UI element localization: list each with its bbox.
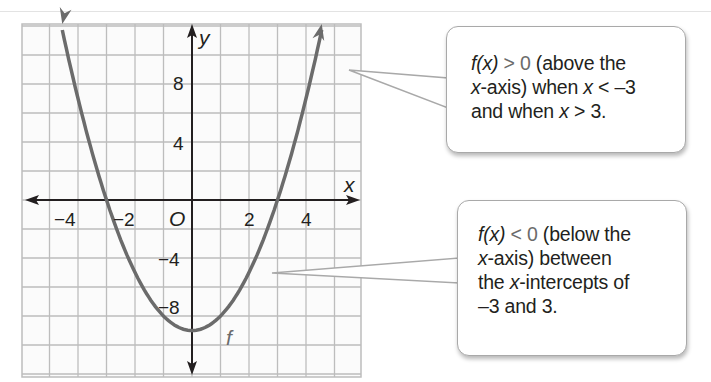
y-axis-label: y (197, 26, 211, 49)
fx-symbol: f(x) (478, 223, 505, 245)
y-tick-8: 8 (173, 73, 184, 94)
origin-label: O (169, 207, 185, 230)
x-tick--2: −2 (113, 209, 135, 230)
relation: > 0 (498, 52, 530, 74)
callout-text: -axis) between (488, 247, 612, 269)
callout-1-pointer (349, 70, 448, 108)
callout-1-line-1: f(x) > 0 (above the (471, 51, 685, 75)
fx-symbol: f(x) (471, 52, 498, 74)
x-tick--4: −4 (54, 209, 76, 230)
callout-text: (below the (538, 223, 631, 245)
callout-text: > 3. (569, 100, 607, 122)
callout-positive-region: f(x) > 0 (above the x-axis) when x < –3 … (446, 26, 686, 153)
callout-text: -intercepts of (519, 271, 629, 293)
callout-2-line-3: the x-intercepts of (478, 270, 686, 294)
x-var: x (559, 100, 569, 122)
y-tick--4: −4 (158, 249, 180, 270)
y-tick--8: −8 (158, 297, 180, 318)
callout-text: the (478, 271, 510, 293)
callout-1-line-2: x-axis) when x < –3 (471, 75, 685, 99)
x-var: x (471, 76, 481, 98)
relation: < 0 (505, 223, 537, 245)
y-tick-4: 4 (173, 133, 184, 154)
callout-1-line-3: and when x > 3. (471, 99, 685, 123)
callout-text: –3 and 3. (478, 295, 558, 317)
callout-text: < –3 (593, 76, 636, 98)
callout-2-line-1: f(x) < 0 (below the (478, 222, 686, 246)
x-var: x (583, 76, 593, 98)
callout-negative-region: f(x) < 0 (below the x-axis) between the … (457, 200, 687, 356)
x-var: x (510, 271, 520, 293)
callout-2-line-2: x-axis) between (478, 246, 686, 270)
callout-text: -axis) when (481, 76, 584, 98)
x-tick-4: 4 (301, 209, 312, 230)
x-var: x (478, 247, 488, 269)
callout-text: and when (471, 100, 559, 122)
callout-text: (above the (531, 52, 626, 74)
x-axis-label: x (343, 173, 356, 196)
x-tick-2: 2 (244, 209, 255, 230)
callout-2-line-4: –3 and 3. (478, 294, 686, 318)
curve-left-arrow-icon (60, 7, 72, 24)
